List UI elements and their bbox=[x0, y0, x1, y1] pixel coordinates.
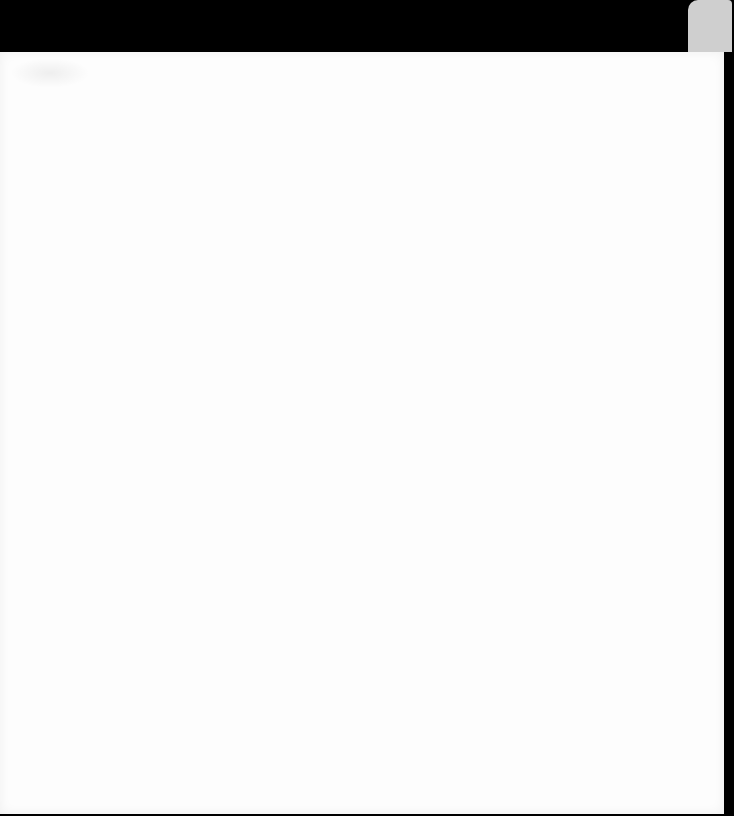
blank-page bbox=[0, 52, 724, 814]
scan-smudge bbox=[10, 58, 90, 88]
page-tab bbox=[688, 0, 732, 56]
scan-border bbox=[724, 52, 734, 816]
